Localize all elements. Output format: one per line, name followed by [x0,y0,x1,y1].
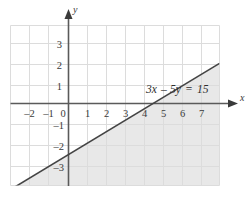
y-axis-name: y [72,4,78,15]
y-tick-label: –2 [53,141,65,152]
x-axis-name: x [239,92,245,103]
y-tick-label: 2 [57,60,62,71]
x-tick-label: 2 [104,108,109,119]
origin-label: 0 [60,108,65,119]
equation-minus-operator: – [160,83,167,95]
equation-rhs: 15 [197,83,209,95]
y-tick-label: 1 [57,81,62,92]
graph-figure: –2 –1 1 2 3 4 5 6 7 0 3 2 1 –1 –2 –3 y x… [0,0,249,197]
y-tick-label: –1 [53,120,65,131]
x-tick-label: 4 [142,108,148,119]
equation-lhs-term2: 5y [170,83,182,96]
x-tick-label: –1 [42,108,54,119]
x-tick-label: –2 [23,108,35,119]
x-tick-label: 7 [199,108,204,119]
y-tick-label: –3 [53,162,65,173]
equation-equals-operator: = [185,83,193,95]
x-tick-label: 6 [180,108,185,119]
x-tick-label: 1 [85,108,90,119]
coordinate-plane-svg: –2 –1 1 2 3 4 5 6 7 0 3 2 1 –1 –2 –3 y x… [0,0,249,197]
equation-label: 3x – 5y = 15 [145,83,209,96]
y-tick-label: 3 [57,39,62,50]
x-tick-label: 3 [123,108,128,119]
equation-lhs-term1: 3x [145,83,158,95]
x-tick-label: 5 [161,108,166,119]
